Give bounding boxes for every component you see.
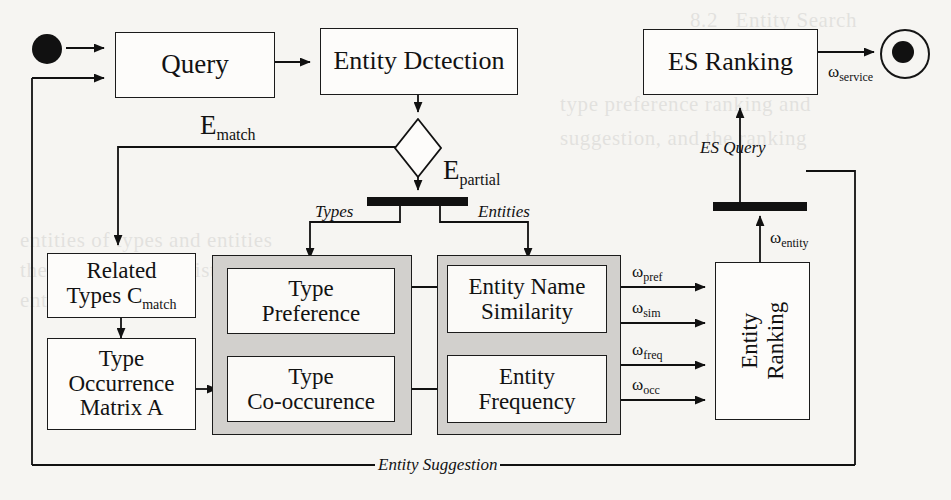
label-omega-sim-sub: sim [643, 306, 660, 320]
node-entity-ranking-text: Entity Ranking [737, 302, 789, 380]
label-e-partial-sub: partial [460, 171, 501, 188]
node-type-occurrence-line1: Type [99, 347, 145, 372]
node-entity-detection-label: Entity Dctection [329, 47, 508, 75]
node-entity-ranking[interactable]: Entity Ranking [715, 262, 810, 420]
join-bar-esquery [713, 202, 807, 211]
label-entities: Entities [478, 202, 530, 222]
node-type-cooccurence-line2: Co-occurence [247, 389, 375, 414]
label-entity-suggestion: Entity Suggestion [375, 455, 500, 475]
node-entity-detection[interactable]: Entity Dctection [320, 28, 518, 95]
node-type-occurrence-line3: Matrix A [80, 396, 164, 421]
label-omega-entity: ωentity [770, 228, 809, 251]
label-omega-freq-sub: freq [643, 348, 662, 362]
diagram-canvas: 8.2 Entity Search are type preference ra… [0, 0, 951, 500]
node-entity-frequency-line1: Entity [499, 364, 555, 389]
label-es-query: ES Query [700, 138, 766, 158]
label-types: Types [315, 202, 353, 222]
node-type-occurrence-matrix[interactable]: Type Occurrence Matrix A [47, 338, 196, 430]
label-omega-pref: ωpref [632, 262, 663, 285]
label-omega-sim: ωsim [632, 298, 661, 321]
label-omega-freq: ωfreq [632, 340, 663, 363]
label-omega-occ: ωocc [632, 375, 660, 398]
label-e-match: Ematch [200, 110, 256, 144]
node-entity-frequency-line2: Frequency [478, 389, 575, 414]
start-node [32, 34, 62, 64]
node-related-types-subscript: match [142, 297, 176, 312]
node-entity-ranking-line2: Ranking [762, 302, 787, 380]
node-query-label: Query [157, 50, 232, 79]
node-type-cooccurence[interactable]: Type Co-occurence [227, 356, 395, 422]
node-type-preference[interactable]: Type Preference [227, 268, 395, 334]
fork-bar-epartial [367, 197, 468, 206]
label-omega-occ-sub: occ [643, 383, 660, 397]
label-omega-service: ωservice [828, 62, 873, 85]
label-omega-service-sub: service [839, 70, 873, 84]
node-es-ranking[interactable]: ES Ranking [643, 29, 818, 95]
label-omega-pref-sub: pref [643, 270, 662, 284]
node-related-types-line2: Types Cmatch [67, 284, 177, 312]
label-e-partial: Epartial [443, 155, 500, 189]
node-related-types-line1: Related [86, 259, 156, 284]
node-related-types[interactable]: Related Types Cmatch [47, 253, 196, 318]
end-node-core [892, 41, 914, 63]
node-entity-name-similarity-line1: Entity Name [469, 274, 586, 299]
node-es-ranking-label: ES Ranking [664, 48, 797, 76]
node-entity-ranking-line1: Entity [737, 313, 762, 369]
edge-return-right [806, 171, 855, 465]
node-type-occurrence-line2: Occurrence [69, 372, 175, 397]
node-type-preference-line2: Preference [262, 301, 360, 326]
node-type-cooccurence-line1: Type [288, 364, 334, 389]
edge-ematch [118, 147, 396, 245]
node-entity-frequency[interactable]: Entity Frequency [447, 355, 607, 423]
node-entity-name-similarity-line2: Similarity [481, 299, 573, 324]
label-omega-entity-sub: entity [781, 236, 808, 250]
node-query[interactable]: Query [115, 32, 275, 98]
label-e-match-sub: match [217, 126, 256, 143]
node-type-preference-line1: Type [288, 276, 334, 301]
decision-diamond[interactable] [394, 118, 442, 178]
node-entity-name-similarity[interactable]: Entity Name Similarity [447, 265, 607, 333]
